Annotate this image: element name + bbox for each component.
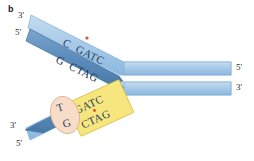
panel-letter: b bbox=[8, 4, 14, 14]
label-right-five-prime: 5' bbox=[236, 62, 242, 72]
label-lower-left-three-prime: 3' bbox=[10, 120, 16, 130]
upper-right-duplex-arm bbox=[124, 62, 231, 75]
label-upper-left-three-prime: 3' bbox=[18, 10, 24, 20]
label-upper-left-five-prime: 5' bbox=[15, 27, 21, 37]
replication-fork-illustration: C GATC G CTAG GATC CTAG T G bbox=[0, 0, 254, 161]
figure-panel-b: C GATC G CTAG GATC CTAG T G b 3' 5' 3' 5… bbox=[0, 0, 254, 161]
label-right-three-prime: 3' bbox=[236, 82, 242, 92]
upper-methyl-group-dot bbox=[85, 36, 88, 39]
lower-right-duplex-arm bbox=[124, 82, 231, 95]
label-lower-left-five-prime: 5' bbox=[16, 138, 22, 148]
